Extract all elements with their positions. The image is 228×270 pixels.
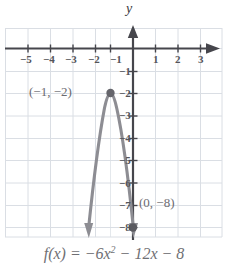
- x-tick-label-neg5: −5: [20, 54, 32, 65]
- y-tick-label-neg5: −5: [119, 155, 131, 166]
- y-tick-label-neg6: −6: [119, 178, 131, 189]
- y-tick-label-neg7: −7: [119, 200, 131, 211]
- curve-arrow-left: [84, 223, 93, 238]
- y-tick-label-neg1: −1: [119, 66, 131, 77]
- y-tick-label-neg8: −8: [119, 222, 131, 233]
- equation-prefix: f(x) = −6x: [44, 245, 111, 262]
- function-equation: f(x) = −6x2 − 12x − 8: [0, 245, 228, 262]
- equation-suffix: − 12x − 8: [116, 245, 185, 262]
- vertex-point-label: (−1, −2): [29, 85, 72, 98]
- x-tick-label-3: 3: [198, 54, 204, 65]
- y-tick-label-neg3: −3: [119, 110, 131, 121]
- x-tick-label-neg4: −4: [43, 54, 55, 65]
- y-tick-label-neg2: −2: [119, 88, 131, 99]
- graph-canvas: [0, 0, 228, 270]
- y-tick-label-neg4: −4: [119, 133, 131, 144]
- x-tick-label-neg3: −3: [65, 54, 77, 65]
- y-axis-label: y: [126, 2, 132, 16]
- x-tick-label-2: 2: [175, 54, 181, 65]
- parabola-figure: y −5 −4 −3 −2 −1 1 2 3 −1 −2 −3 −4 −5 −6…: [0, 0, 228, 270]
- y-intercept-point-label: (0, −8): [139, 196, 175, 209]
- x-tick-label-1: 1: [153, 54, 159, 65]
- x-tick-label-neg2: −2: [88, 54, 100, 65]
- vertex-point-marker: [106, 89, 114, 97]
- x-tick-label-neg1: −1: [110, 54, 122, 65]
